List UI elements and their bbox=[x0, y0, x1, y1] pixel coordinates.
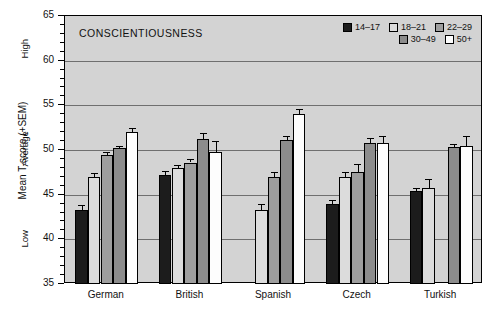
error-bar bbox=[429, 179, 430, 188]
bar[interactable] bbox=[326, 204, 339, 284]
y-tick-major bbox=[58, 283, 64, 284]
bar[interactable] bbox=[172, 168, 185, 284]
error-bar-cap bbox=[342, 172, 349, 173]
error-bar-cap bbox=[413, 188, 420, 189]
bar[interactable] bbox=[268, 177, 281, 284]
bar[interactable] bbox=[351, 172, 364, 284]
error-bar-cap bbox=[296, 109, 303, 110]
bar[interactable] bbox=[339, 177, 352, 284]
error-bar-cap bbox=[103, 152, 110, 153]
y-tick-label: 50 bbox=[20, 143, 54, 154]
error-bar-cap bbox=[187, 159, 194, 160]
error-bar-cap bbox=[129, 128, 136, 129]
y-tick-label: 65 bbox=[20, 9, 54, 20]
y-band-label-average: Average bbox=[19, 154, 30, 166]
bar[interactable] bbox=[184, 163, 197, 284]
error-bar-cap bbox=[463, 136, 470, 137]
bar[interactable] bbox=[280, 140, 293, 284]
y-tick-label: 60 bbox=[20, 54, 54, 65]
error-bar-cap bbox=[91, 173, 98, 174]
error-bar-cap bbox=[354, 164, 361, 165]
x-axis-label: Czech bbox=[315, 289, 399, 300]
error-bar-cap bbox=[367, 138, 374, 139]
error-bar-cap bbox=[162, 171, 169, 172]
y-tick-label: 35 bbox=[20, 277, 54, 288]
error-bar-cap bbox=[78, 205, 85, 206]
error-bar bbox=[216, 141, 217, 152]
bar[interactable] bbox=[422, 188, 435, 284]
x-axis-label: Spanish bbox=[231, 289, 315, 300]
bar[interactable] bbox=[448, 147, 461, 284]
error-bar-cap bbox=[271, 172, 278, 173]
conscientiousness-bar-chart: Mean T-score (+SEM) High Average Low 354… bbox=[0, 0, 498, 324]
x-axis-label: German bbox=[64, 289, 148, 300]
bar[interactable] bbox=[255, 210, 268, 284]
y-tick-label: 40 bbox=[20, 232, 54, 243]
bar[interactable] bbox=[377, 143, 390, 284]
error-bar-cap bbox=[379, 136, 386, 137]
error-bar-cap bbox=[425, 179, 432, 180]
y-tick-label: 45 bbox=[20, 188, 54, 199]
error-bar-cap bbox=[258, 204, 265, 205]
bar[interactable] bbox=[460, 146, 473, 284]
error-bar bbox=[466, 136, 467, 147]
error-bar-cap bbox=[200, 133, 207, 134]
bar[interactable] bbox=[75, 210, 88, 284]
bar[interactable] bbox=[101, 155, 114, 284]
error-bar-cap bbox=[212, 141, 219, 142]
x-axis-label: Turkish bbox=[398, 289, 482, 300]
error-bar-cap bbox=[283, 136, 290, 137]
bar[interactable] bbox=[113, 148, 126, 284]
bar[interactable] bbox=[364, 143, 377, 284]
y-tick-label: 55 bbox=[20, 98, 54, 109]
error-bar-cap bbox=[174, 165, 181, 166]
error-bar-cap bbox=[329, 200, 336, 201]
bar[interactable] bbox=[293, 114, 306, 284]
bar[interactable] bbox=[410, 191, 423, 284]
plot-area: CONSCIENTIOUSNESS 14–1718–2122–2930–4950… bbox=[64, 15, 482, 283]
bar[interactable] bbox=[197, 139, 210, 284]
error-bar bbox=[383, 136, 384, 143]
bar[interactable] bbox=[209, 152, 222, 284]
bar[interactable] bbox=[126, 132, 139, 284]
bar-series-container bbox=[65, 16, 481, 282]
x-axis-label: British bbox=[148, 289, 232, 300]
bar[interactable] bbox=[159, 175, 172, 284]
error-bar bbox=[358, 164, 359, 172]
error-bar-cap bbox=[450, 144, 457, 145]
error-bar-cap bbox=[116, 146, 123, 147]
bar[interactable] bbox=[88, 177, 101, 284]
